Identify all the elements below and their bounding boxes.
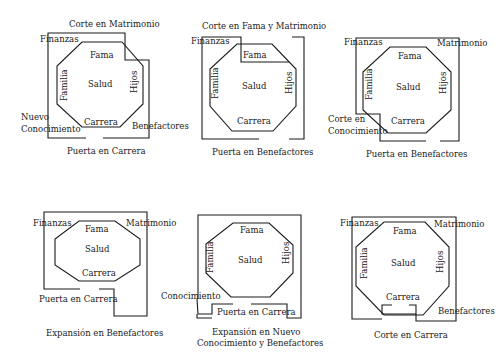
- carrera-notch: [382, 305, 416, 314]
- label-hijos: Hijos: [129, 71, 139, 93]
- label-carrera: Carrera: [391, 116, 425, 126]
- panel-puerta-en-benefactores-corte-conocimiento: Finanzas Matrimonio Fama Salud Familia H…: [328, 37, 487, 159]
- label-salud: Salud: [238, 255, 263, 265]
- label-salud: Salud: [396, 82, 421, 92]
- label-hijos: Hijos: [438, 72, 448, 94]
- label-fama: Fama: [398, 51, 422, 61]
- caption-line-1: Expansión en Nuevo: [212, 327, 300, 337]
- label-finanzas: Finanzas: [344, 37, 383, 47]
- caption: Expansión en Benefactores: [46, 328, 163, 338]
- label-familia: Familia: [210, 67, 220, 99]
- bagua-floorplan-diagram: Corte en Matrimonio Finanzas Fama Salud …: [0, 0, 503, 361]
- label-benefactores: Benefactores: [438, 306, 495, 316]
- label-conocimiento: Conocimiento: [21, 124, 81, 134]
- label-familia: Familia: [205, 241, 215, 273]
- label-finanzas: Finanzas: [191, 36, 230, 46]
- label-fama: Fama: [240, 225, 264, 235]
- caption: Puerta en Benefactores: [366, 149, 467, 159]
- panel-puerta-en-carrera: Corte en Matrimonio Finanzas Fama Salud …: [21, 19, 189, 156]
- label-finanzas: Finanzas: [33, 218, 72, 228]
- label-matrimonio: Matrimonio: [434, 219, 484, 229]
- label-familia: Familia: [364, 68, 374, 100]
- caption: Puerta en Carrera: [67, 146, 146, 156]
- label-fama: Fama: [85, 224, 109, 234]
- label-hijos: Hijos: [435, 251, 445, 273]
- label-nuevo: Nuevo: [21, 112, 49, 122]
- label-fama: Fama: [90, 50, 114, 60]
- label-salud: Salud: [85, 244, 110, 254]
- label-finanzas: Finanzas: [40, 34, 79, 44]
- label-carrera: Carrera: [386, 292, 420, 302]
- label-salud: Salud: [242, 81, 267, 91]
- outer-wall-left-bottom: [197, 314, 212, 318]
- caption-line-2: Conocimiento y Benefactores: [197, 338, 323, 348]
- label-fama: Fama: [393, 226, 417, 236]
- label-salud: Salud: [88, 79, 113, 89]
- panel-expansion-en-benefactores: Finanzas Matrimonio Fama Salud Carrera P…: [33, 212, 176, 338]
- label-familia: Familia: [59, 69, 69, 101]
- label-carrera: Carrera: [84, 117, 118, 127]
- caption: Puerta en Benefactores: [212, 147, 313, 157]
- label-familia: Familia: [359, 247, 369, 279]
- panel-puerta-en-benefactores: Corte en Fama y Matrimonio Finanzas Fama…: [191, 21, 326, 157]
- label-conocimiento: Conocimiento: [328, 126, 388, 136]
- label-finanzas: Finanzas: [340, 218, 379, 228]
- top-note: Corte en Matrimonio: [69, 19, 160, 29]
- label-carrera: Carrera: [237, 116, 271, 126]
- label-conocimiento: Conocimiento: [161, 291, 221, 301]
- panel-corte-en-carrera: Finanzas Matrimonio Fama Salud Familia H…: [340, 217, 495, 340]
- label-corte-en: Corte en: [328, 114, 366, 124]
- panel-expansion-conocimiento-benefactores: Fama Salud Familia Hijos Conocimiento Pu…: [161, 215, 323, 348]
- label-hijos: Hijos: [281, 242, 291, 264]
- label-matrimonio: Matrimonio: [437, 38, 487, 48]
- label-benefactores: Benefactores: [132, 121, 189, 131]
- top-note: Corte en Fama y Matrimonio: [202, 21, 326, 31]
- label-puerta-en-carrera: Puerta en Carrera: [39, 294, 118, 304]
- label-salud: Salud: [391, 258, 416, 268]
- caption: Corte en Carrera: [374, 330, 448, 340]
- label-hijos: Hijos: [284, 72, 294, 94]
- label-matrimonio: Matrimonio: [126, 218, 176, 228]
- label-carrera: Carrera: [82, 268, 116, 278]
- label-puerta-en-carrera: Puerta en Carrera: [217, 307, 296, 317]
- label-fama: Fama: [243, 50, 267, 60]
